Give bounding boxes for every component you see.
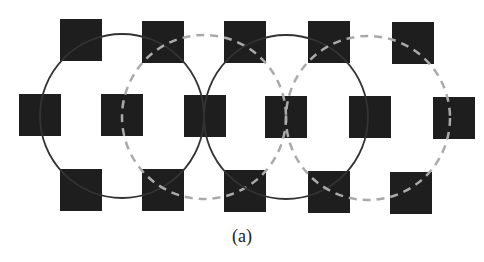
square-node	[392, 22, 434, 64]
figure-caption: (a)	[0, 226, 484, 247]
square-node	[308, 171, 350, 213]
circle-square-diagram	[0, 0, 484, 262]
square-node	[349, 96, 391, 138]
square-node	[390, 172, 432, 214]
square-node	[433, 97, 475, 139]
